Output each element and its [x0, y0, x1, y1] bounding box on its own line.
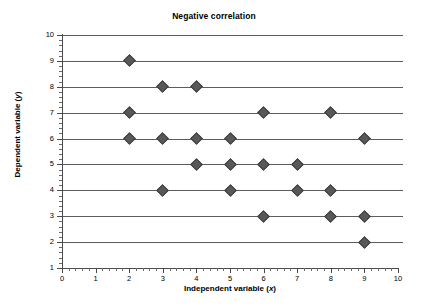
y-tick-8: [57, 87, 62, 88]
x-minor-tick: [136, 268, 137, 271]
x-minor-tick: [371, 268, 372, 271]
data-point[interactable]: [257, 158, 270, 171]
data-point[interactable]: [257, 210, 270, 223]
x-tick-label-5: 5: [220, 275, 240, 283]
y-tick-label-6: 6: [36, 135, 54, 143]
data-point[interactable]: [291, 158, 304, 171]
y-tick-5: [57, 164, 62, 165]
y-minor-tick: [59, 118, 62, 119]
data-point[interactable]: [257, 106, 270, 119]
y-minor-tick: [59, 211, 62, 212]
data-point[interactable]: [358, 132, 371, 145]
x-minor-tick: [183, 268, 184, 271]
x-tick-0: [62, 268, 63, 273]
plot-area: [62, 35, 403, 268]
y-axis-line: [62, 34, 63, 269]
x-minor-tick: [284, 268, 285, 271]
y-minor-tick: [59, 159, 62, 160]
data-point[interactable]: [291, 184, 304, 197]
gridline-y-2: [62, 242, 403, 243]
y-tick-3: [57, 216, 62, 217]
x-minor-tick: [351, 268, 352, 271]
y-minor-tick: [59, 258, 62, 259]
y-tick-label-7: 7: [36, 109, 54, 117]
x-minor-tick: [290, 268, 291, 271]
y-minor-tick: [59, 128, 62, 129]
x-minor-tick: [156, 268, 157, 271]
y-minor-tick: [59, 149, 62, 150]
gridline-y-7: [62, 113, 403, 114]
x-minor-tick: [344, 268, 345, 271]
x-tick-4: [196, 268, 197, 273]
x-tick-label-6: 6: [254, 275, 274, 283]
y-minor-tick: [59, 221, 62, 222]
y-tick-4: [57, 190, 62, 191]
y-minor-tick: [59, 196, 62, 197]
y-axis-title: Dependent variable (y): [13, 55, 22, 215]
chart-title: Negative correlation: [0, 11, 428, 21]
y-minor-tick: [59, 247, 62, 248]
x-tick-6: [264, 268, 265, 273]
x-tick-7: [297, 268, 298, 273]
x-axis-title-paren: ): [273, 284, 276, 293]
x-minor-tick: [203, 268, 204, 271]
y-minor-tick: [59, 263, 62, 264]
data-point[interactable]: [224, 132, 237, 145]
data-point[interactable]: [324, 184, 337, 197]
x-minor-tick: [378, 268, 379, 271]
data-point[interactable]: [123, 55, 136, 68]
data-point[interactable]: [324, 106, 337, 119]
data-point[interactable]: [156, 132, 169, 145]
data-point[interactable]: [123, 132, 136, 145]
x-minor-tick: [69, 268, 70, 271]
x-minor-tick: [109, 268, 110, 271]
x-tick-label-10: 10: [388, 275, 408, 283]
x-minor-tick: [311, 268, 312, 271]
y-minor-tick: [59, 232, 62, 233]
data-point[interactable]: [224, 184, 237, 197]
data-point[interactable]: [156, 80, 169, 93]
y-minor-tick: [59, 154, 62, 155]
y-tick-label-5: 5: [36, 160, 54, 168]
x-minor-tick: [190, 268, 191, 271]
y-minor-tick: [59, 123, 62, 124]
x-minor-tick: [317, 268, 318, 271]
x-minor-tick: [385, 268, 386, 271]
x-tick-label-0: 0: [52, 275, 72, 283]
x-tick-label-4: 4: [186, 275, 206, 283]
x-minor-tick: [277, 268, 278, 271]
x-minor-tick: [338, 268, 339, 271]
y-minor-tick: [59, 144, 62, 145]
y-minor-tick: [59, 66, 62, 67]
x-minor-tick: [122, 268, 123, 271]
y-minor-tick: [59, 185, 62, 186]
data-point[interactable]: [190, 80, 203, 93]
x-minor-tick: [250, 268, 251, 271]
y-tick-label-3: 3: [36, 212, 54, 220]
x-minor-tick: [82, 268, 83, 271]
data-point[interactable]: [156, 184, 169, 197]
x-minor-tick: [116, 268, 117, 271]
x-tick-8: [331, 268, 332, 273]
x-minor-tick: [270, 268, 271, 271]
data-point[interactable]: [358, 236, 371, 249]
x-minor-tick: [143, 268, 144, 271]
x-minor-tick: [102, 268, 103, 271]
data-point[interactable]: [123, 106, 136, 119]
x-minor-tick: [237, 268, 238, 271]
y-tick-2: [57, 242, 62, 243]
x-tick-label-8: 8: [321, 275, 341, 283]
y-tick-10: [57, 35, 62, 36]
data-point[interactable]: [190, 158, 203, 171]
gridline-y-8: [62, 87, 403, 88]
data-point[interactable]: [358, 210, 371, 223]
x-tick-label-3: 3: [153, 275, 173, 283]
data-point[interactable]: [224, 158, 237, 171]
data-point[interactable]: [190, 132, 203, 145]
x-minor-tick: [257, 268, 258, 271]
y-minor-tick: [59, 107, 62, 108]
y-tick-label-1: 1: [36, 264, 54, 272]
x-minor-tick: [324, 268, 325, 271]
data-point[interactable]: [324, 210, 337, 223]
y-axis-title-text: Dependent variable (: [13, 99, 22, 178]
